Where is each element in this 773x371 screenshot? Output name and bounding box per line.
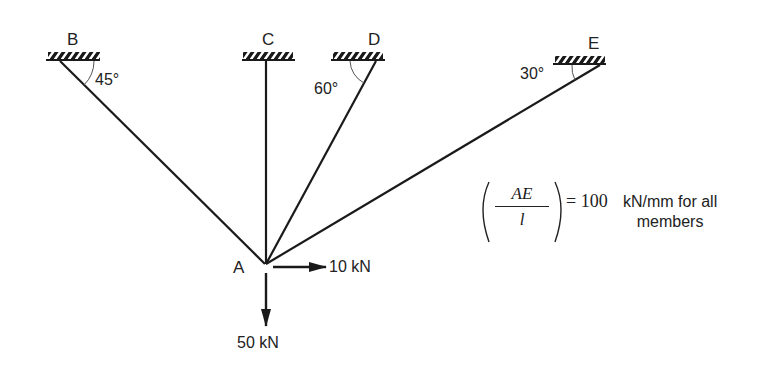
angle-arc-e bbox=[572, 65, 575, 80]
member-ab bbox=[60, 61, 265, 264]
label-joint-a: A bbox=[233, 258, 244, 278]
support-c bbox=[242, 52, 295, 60]
fraction-numerator: AE bbox=[493, 182, 551, 206]
angle-label-e: 30° bbox=[520, 65, 544, 83]
equals-value: = 100 bbox=[566, 191, 608, 212]
note-text-line2: members bbox=[623, 212, 717, 232]
note-text: kN/mm for all members bbox=[623, 192, 717, 232]
load-label-horizontal: 10 kN bbox=[329, 258, 371, 276]
fraction: AE l bbox=[493, 182, 551, 231]
load-label-vertical: 50 kN bbox=[237, 334, 279, 352]
label-d: D bbox=[368, 30, 380, 50]
support-e bbox=[553, 56, 606, 64]
angle-label-d: 60° bbox=[314, 80, 338, 98]
label-b: B bbox=[67, 30, 78, 50]
stiffness-note: AE l = 100 kN/mm for all members bbox=[473, 178, 763, 258]
support-d bbox=[331, 52, 385, 60]
angle-label-b: 45° bbox=[95, 71, 119, 89]
fraction-denominator: l bbox=[493, 207, 551, 231]
angle-arc-d bbox=[350, 61, 364, 83]
note-text-line1: kN/mm for all bbox=[623, 192, 717, 212]
support-b bbox=[46, 52, 100, 60]
angle-arc-b bbox=[84, 61, 94, 85]
label-e: E bbox=[588, 34, 599, 54]
label-c: C bbox=[262, 30, 274, 50]
